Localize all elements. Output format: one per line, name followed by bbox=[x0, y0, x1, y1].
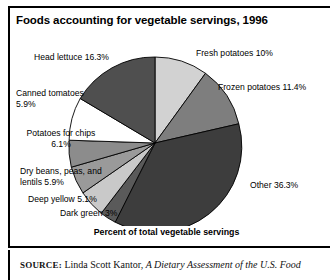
frame-bottom-rule bbox=[8, 246, 330, 248]
label-head-lettuce: Head lettuce 16.3% bbox=[34, 52, 109, 63]
label-dry-beans: Dry beans, peas, and lentils 5.9% bbox=[20, 166, 116, 187]
label-fresh-potatoes: Fresh potatoes 10% bbox=[196, 48, 273, 59]
label-potatoes-chips: Potatoes for chips 6.1% bbox=[24, 128, 98, 149]
frame-left-rule bbox=[8, 6, 10, 248]
source-work-title: A Dietary Assessment of the U.S. Food bbox=[146, 259, 301, 270]
label-canned-tomatoes: Canned tomatoes 5.9% bbox=[16, 88, 86, 109]
label-frozen-potatoes: Frozen potatoes 11.4% bbox=[218, 82, 306, 93]
chart-title: Foods accounting for vegetable servings,… bbox=[16, 14, 316, 26]
source-left-rule bbox=[8, 250, 10, 280]
label-deep-yellow: Deep yellow 5.1% bbox=[28, 194, 97, 205]
axis-caption: Percent of total vegetable servings bbox=[0, 227, 333, 237]
source-author: Linda Scott Kantor, bbox=[64, 259, 143, 270]
figure-container: Foods accounting for vegetable servings,… bbox=[0, 0, 333, 280]
source-prefix: SOURCE: bbox=[20, 260, 62, 270]
label-other: Other 36.3% bbox=[250, 180, 298, 191]
label-dark-green: Dark green 3% bbox=[60, 208, 117, 219]
source-note: SOURCE: Linda Scott Kantor, A Dietary As… bbox=[20, 259, 325, 270]
frame-top-rule bbox=[8, 6, 330, 8]
